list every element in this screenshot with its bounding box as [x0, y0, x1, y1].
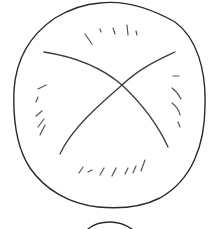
cross-line-b [60, 52, 175, 154]
top-hatches [85, 25, 137, 44]
lower-partial-arc [88, 222, 132, 229]
right-hatches [172, 76, 181, 127]
sketch-canvas [0, 0, 213, 229]
outline-circle [14, 2, 205, 207]
bottom-hatches [79, 160, 145, 176]
left-hatches [36, 85, 46, 135]
